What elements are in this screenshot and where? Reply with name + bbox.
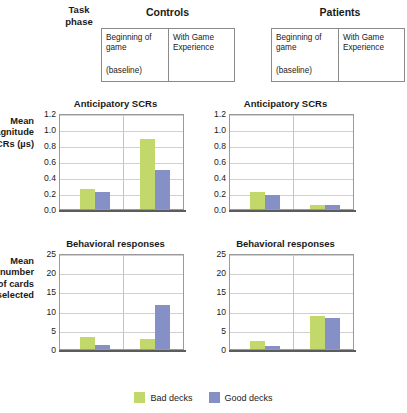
gridline [230, 195, 353, 196]
gridline [60, 163, 183, 164]
figure-header: Task phase Controls Patients Beginning o… [0, 0, 407, 92]
plot-box [59, 254, 184, 350]
tick-label: 0.6 [214, 157, 226, 167]
chart-controls-scr: Anticipatory SCRsMeanmagnitudeof SCRs (µ… [36, 98, 185, 220]
gridline [230, 147, 353, 148]
phase-table-controls: Beginning of game (baseline) With Game E… [101, 28, 235, 82]
chart-title: Behavioral responses [216, 238, 355, 249]
tick-label: 20 [46, 268, 56, 278]
bar-bad-decks [140, 339, 155, 349]
bar-good-decks [95, 345, 110, 349]
bar-good-decks [325, 318, 340, 349]
gridline [230, 255, 353, 256]
bar-good-decks [95, 192, 110, 209]
bar-good-decks [265, 346, 280, 349]
tick-label: 0.8 [44, 141, 56, 151]
gridline [60, 274, 183, 275]
tick-label: 25 [216, 249, 226, 259]
phase-cell-baseline: Beginning of game (baseline) [102, 29, 168, 81]
bar-bad-decks [310, 205, 325, 209]
gridline [230, 163, 353, 164]
gridline [230, 131, 353, 132]
phase-divider [123, 255, 124, 349]
tick-label: 10 [46, 307, 56, 317]
tick-label: 15 [46, 287, 56, 297]
y-axis-ticks: 0510152025 [36, 254, 58, 350]
gridline [230, 293, 353, 294]
bar-bad-decks [250, 192, 265, 209]
tick-label: 25 [46, 249, 56, 259]
phase-divider [123, 115, 124, 209]
chart-title: Behavioral responses [46, 238, 185, 249]
bar-good-decks [155, 170, 170, 209]
phase-cell-experience: With Game Experience [168, 29, 234, 81]
plot-area: 0510152025 [206, 254, 355, 350]
phase-cell-baseline: Beginning of game (baseline) [272, 29, 338, 81]
bar-bad-decks [140, 139, 155, 209]
tick-label: 5 [221, 326, 226, 336]
x-axis-baseline [59, 210, 186, 212]
tick-label: 0.6 [44, 157, 56, 167]
y-axis-label: Meannumberof cardsselected [0, 256, 34, 301]
tick-label: 20 [216, 268, 226, 278]
legend-item-good-decks: Good decks [209, 392, 273, 403]
gridline [230, 274, 353, 275]
phase-divider [293, 255, 294, 349]
y-axis-ticks: 0.00.20.40.60.81.01.2 [36, 114, 58, 210]
gridline [60, 131, 183, 132]
x-axis-baseline [59, 350, 186, 352]
y-axis-label: Meanmagnitudeof SCRs (µs) [0, 116, 34, 150]
plot-area: 0.00.20.40.60.81.01.2 [36, 114, 185, 210]
gridline [60, 115, 183, 116]
x-axis-baseline [229, 210, 356, 212]
tick-label: 1.0 [214, 125, 226, 135]
tick-label: 0.2 [44, 189, 56, 199]
tick-label: 0.4 [214, 173, 226, 183]
bar-bad-decks [80, 189, 95, 209]
phase-table-patients: Beginning of game (baseline) With Game E… [271, 28, 405, 82]
plot-area: 0.00.20.40.60.81.01.2 [206, 114, 355, 210]
plot-box [59, 114, 184, 210]
tick-label: 10 [216, 307, 226, 317]
tick-label: 5 [51, 326, 56, 336]
y-axis-ticks: 0510152025 [206, 254, 228, 350]
y-axis-ticks: 0.00.20.40.60.81.01.2 [206, 114, 228, 210]
bar-bad-decks [80, 337, 95, 349]
chart-title: Anticipatory SCRs [46, 98, 185, 109]
chart-title: Anticipatory SCRs [216, 98, 355, 109]
x-axis-baseline [229, 350, 356, 352]
bar-good-decks [155, 305, 170, 349]
chart-patients-behavior: Behavioral responses0510152025 [206, 238, 355, 360]
legend-label-bad-decks: Bad decks [150, 393, 192, 403]
tick-label: 1.2 [44, 109, 56, 119]
gridline [60, 293, 183, 294]
phase-cell-experience: With Game Experience [338, 29, 404, 81]
bar-good-decks [265, 195, 280, 209]
legend-swatch-bad-decks [134, 392, 145, 403]
legend-label-good-decks: Good decks [225, 393, 273, 403]
gridline [230, 313, 353, 314]
tick-label: 0 [221, 345, 226, 355]
chart-controls-behavior: Behavioral responsesMeannumberof cardsse… [36, 238, 185, 360]
legend-swatch-good-decks [209, 392, 220, 403]
tick-label: 1.2 [214, 109, 226, 119]
tick-label: 0.8 [214, 141, 226, 151]
tick-label: 15 [216, 287, 226, 297]
group-title-controls: Controls [100, 6, 235, 18]
plot-box [229, 114, 354, 210]
chart-patients-scr: Anticipatory SCRs0.00.20.40.60.81.01.2 [206, 98, 355, 220]
phase-divider [293, 115, 294, 209]
tick-label: 0.2 [214, 189, 226, 199]
gridline [60, 147, 183, 148]
bar-bad-decks [310, 316, 325, 349]
plot-area: 0510152025 [36, 254, 185, 350]
bar-bad-decks [250, 341, 265, 349]
gridline [230, 179, 353, 180]
gridline [230, 115, 353, 116]
bar-good-decks [325, 205, 340, 209]
chart-legend: Bad decks Good decks [0, 392, 407, 403]
tick-label: 0.0 [214, 205, 226, 215]
tick-label: 0.0 [44, 205, 56, 215]
gridline [60, 255, 183, 256]
tick-label: 0 [51, 345, 56, 355]
